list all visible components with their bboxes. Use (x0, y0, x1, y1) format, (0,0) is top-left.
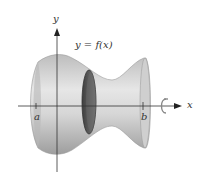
y-axis-arrow-icon (54, 28, 60, 36)
right-face (140, 58, 150, 148)
y-axis-label: y (53, 14, 59, 24)
disk-face (86, 72, 96, 132)
x-axis-arrow-icon (174, 103, 182, 109)
solid-of-revolution-figure (0, 0, 204, 180)
bound-a-label: a (34, 112, 40, 122)
bound-b-label: b (141, 112, 147, 122)
curve-label: y = f(x) (75, 40, 113, 50)
x-axis-label: x (187, 100, 193, 110)
